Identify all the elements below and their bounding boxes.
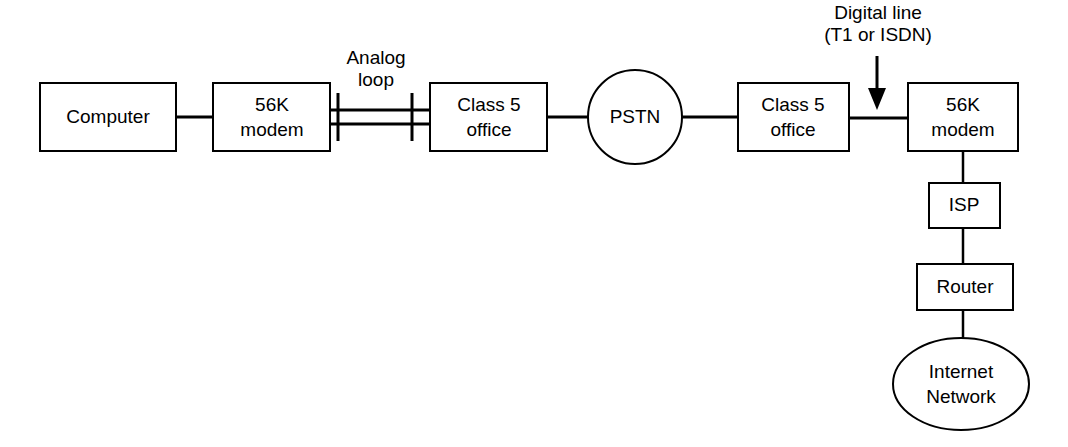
annotation-analog-loop-line1: Analog (346, 47, 405, 68)
node-class5-office-left-label-line1: Class 5 (457, 94, 520, 115)
network-topology-diagram: Computer 56K modem Class 5 office PSTN C… (0, 0, 1068, 447)
annotation-analog-loop-line2: loop (358, 69, 394, 90)
node-class5-office-right-label-line2: office (770, 119, 815, 140)
node-class5-office-right-label-line1: Class 5 (761, 94, 824, 115)
node-modem-left-label-line1: 56K (255, 94, 289, 115)
node-internet-network-label-line1: Internet (929, 361, 994, 382)
node-pstn-label: PSTN (610, 106, 661, 127)
node-internet-network[interactable] (893, 338, 1029, 430)
annotation-digital-line-line2: (T1 or ISDN) (824, 24, 932, 45)
node-router-label: Router (936, 276, 994, 297)
node-internet-network-label-line2: Network (926, 386, 996, 407)
node-modem-right-label-line1: 56K (946, 94, 980, 115)
network-diagram-canvas: Computer 56K modem Class 5 office PSTN C… (0, 0, 1068, 447)
node-modem-right-label-line2: modem (931, 119, 994, 140)
annotation-digital-line-line1: Digital line (834, 2, 922, 23)
node-computer-label: Computer (66, 106, 150, 127)
node-modem-left-label-line2: modem (240, 119, 303, 140)
node-isp-label: ISP (949, 194, 980, 215)
digital-line-arrow-head-icon (868, 88, 886, 110)
node-class5-office-left-label-line2: office (466, 119, 511, 140)
